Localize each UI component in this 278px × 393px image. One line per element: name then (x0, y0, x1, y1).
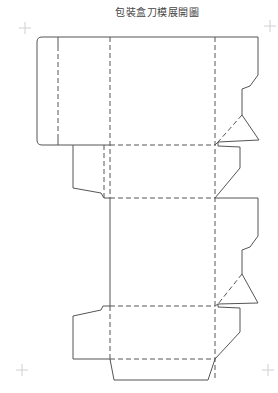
cut-right-flap-1 (215, 37, 259, 145)
cut-right-flap-1-tab (215, 142, 240, 198)
cut-right-flap-2 (215, 198, 258, 306)
dieline-drawing (0, 0, 278, 393)
registration-mark-bottom-right (262, 364, 274, 376)
cut-left-flap-2 (73, 306, 110, 359)
registration-mark-top-left (19, 22, 31, 34)
cut-right-flap-2-tab (215, 304, 240, 359)
fold-lines (58, 37, 242, 380)
cut-lines (37, 37, 259, 380)
cut-top-outline (37, 37, 58, 145)
fold-right-flap-1-diagonal (218, 115, 242, 142)
fold-right-flap-2-diagonal (218, 274, 242, 304)
registration-mark-top-right (264, 20, 276, 32)
cut-tuck-flap (110, 359, 215, 380)
registration-mark-bottom-left (16, 364, 28, 376)
